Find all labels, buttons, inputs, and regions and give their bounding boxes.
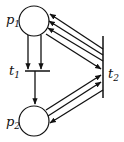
arc-p2-t2 xyxy=(46,75,101,110)
arc-p2-t2 xyxy=(48,82,101,116)
petri-net-diagram: p1 p2 t1 t2 xyxy=(0,0,124,142)
arc-t2-p1 xyxy=(50,14,103,49)
label-p1: p1 xyxy=(6,12,20,29)
label-p2: p2 xyxy=(6,114,20,131)
place-p2 xyxy=(19,106,49,136)
label-t2: t2 xyxy=(108,66,119,83)
arc-t2-p1 xyxy=(48,28,103,61)
label-t1: t1 xyxy=(9,63,20,80)
place-p1 xyxy=(19,6,49,36)
arc-t2-p2 xyxy=(50,90,103,123)
arc-t2-p1 xyxy=(49,21,103,55)
arc-p1-t2 xyxy=(46,34,101,69)
